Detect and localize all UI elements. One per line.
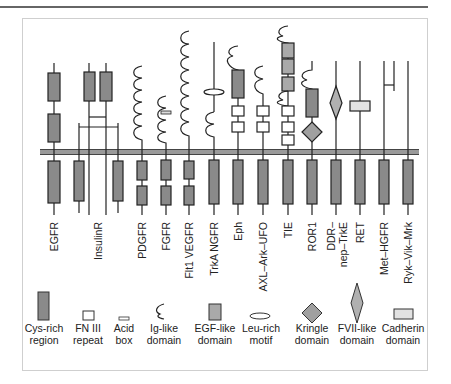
legend-label: Cadherin [382,322,425,334]
legend-label: Ig-like [150,322,178,334]
legend-label: region [29,334,58,346]
cell-membrane [40,149,419,155]
receptor-egfr [48,63,60,215]
acid-box-icon [119,317,129,320]
legend-label: FN III [75,322,101,334]
legend-label: box [116,334,134,346]
label-egfr: EGFR [48,222,60,252]
label-trka-ngfr: TrkA NGFR [208,222,220,276]
legend-label: Leu-rich [242,322,280,334]
label-pdgfr: PDGFR [136,222,148,259]
label-ryk-vik-mrk: Ryk–Vik–Mrk [402,221,414,283]
label-axl-ark-ufo: AXL–Ark–UFO [257,222,269,291]
fn3-repeat-icon [83,311,94,320]
cys-rich-region-icon [38,292,49,320]
legend-label: domain [295,334,330,346]
legend-label: repeat [73,334,103,346]
label-eph: Eph [232,222,244,241]
label-ret: RET [354,221,366,243]
cadherin-domain-icon [394,309,413,319]
label-ddr-line2: nep–TrkE [337,222,349,267]
legend-label: EGF-like [195,322,236,334]
legend-label: motif [250,334,273,346]
egf-like-domain-icon [209,304,221,320]
legend-label: Acid [114,322,135,334]
label-tie: TIE [282,222,294,238]
legend-label: domain [386,334,421,346]
legend-label: domain [147,334,182,346]
legend-label: FVII-like [338,322,377,334]
label-ror1: ROR1 [306,222,318,251]
legend-label: Kringle [296,322,329,334]
legend-label: Cys-rich [25,322,64,334]
leu-rich-motif-icon [250,313,270,319]
legend-label: domain [340,334,375,346]
legend-item-acid-box: Acid box [114,317,135,346]
label-ddr-line1: DDR– [325,222,337,251]
label-fgfr: FGFR [160,222,172,251]
receptor-tyrosine-kinase-diagram: EGFR InsulinR PDGFR FGFR Flt1 VEGFR TrkA… [0,0,451,384]
label-met-hgfr: Met–HGFR [378,222,390,276]
label-flt1-vegfr: Flt1 VEGFR [183,222,195,279]
legend-label: domain [198,334,233,346]
label-insulinr: InsulinR [92,222,104,260]
